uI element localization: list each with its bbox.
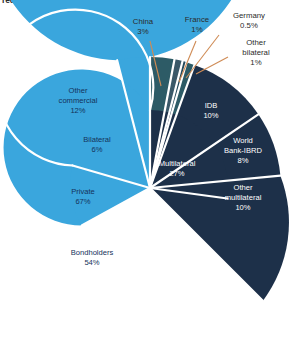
label-idb-name: IDB [205, 101, 218, 110]
label-china-name: China [133, 17, 154, 26]
label-multilateral-name: Multilateral [159, 159, 196, 168]
label-china-pct: 3% [137, 27, 148, 36]
label-other-bilateral: Other bilateral 1% [242, 38, 270, 67]
label-bondholders-name: Bondholders [71, 248, 114, 257]
label-private-name: Private [71, 187, 95, 196]
label-other-multilateral-l2: multilateral [225, 193, 262, 202]
label-other-bilateral-l2: bilateral [242, 48, 270, 57]
label-other-multilateral-l1: Other [234, 183, 253, 192]
label-world-bank-pct: 8% [238, 156, 249, 165]
label-bilateral-pct: 6% [92, 145, 103, 154]
label-other-multilateral-pct: 10% [235, 203, 250, 212]
label-world-bank-l2: Bank-IBRD [224, 146, 262, 155]
label-france-name: France [185, 15, 209, 24]
label-other-commercial-l1: Other [69, 86, 88, 95]
label-multilateral-pct: 27% [169, 169, 184, 178]
label-private-pct: 67% [75, 197, 90, 206]
label-other-bilateral-pct: 1% [250, 58, 261, 67]
label-bondholders: Bondholders 54% [71, 248, 114, 267]
pie-chart-svg: China 3% France 1% Germany 0.5% Other bi… [0, 0, 294, 340]
label-germany-name: Germany [233, 11, 265, 20]
label-other-bilateral-l1: Other [246, 38, 266, 47]
label-idb: IDB 10% [203, 101, 218, 120]
label-other-commercial-pct: 12% [70, 106, 85, 115]
label-bilateral-name: Bilateral [83, 135, 111, 144]
pie-chart-figure: reditor type in 2023, including IMF cred… [0, 0, 294, 340]
label-germany: Germany 0.5% [233, 11, 265, 30]
label-world-bank-l1: World [233, 136, 253, 145]
label-bondholders-pct: 54% [84, 258, 99, 267]
label-idb-pct: 10% [203, 111, 218, 120]
label-germany-pct: 0.5% [240, 21, 258, 30]
label-france-pct: 1% [191, 25, 202, 34]
label-other-commercial-l2: commercial [59, 96, 98, 105]
